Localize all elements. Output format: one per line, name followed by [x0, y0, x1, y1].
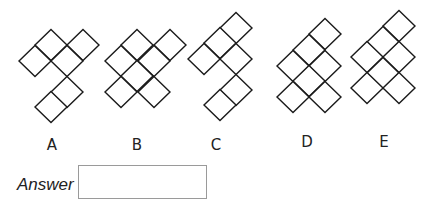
option-a-shape: [19, 30, 99, 123]
option-b-label: B: [132, 138, 142, 153]
answer-input[interactable]: [78, 165, 207, 199]
option-c-shape: [188, 13, 252, 121]
option-a-label: A: [47, 138, 57, 153]
options-figure: [0, 0, 436, 130]
option-e-label: E: [379, 135, 388, 150]
option-c-label: C: [211, 138, 221, 153]
option-e-shape: [351, 11, 415, 104]
answer-label: Answer: [17, 176, 74, 193]
option-d-label: D: [301, 135, 313, 150]
option-d-shape: [277, 19, 341, 113]
option-b-shape: [105, 30, 186, 108]
